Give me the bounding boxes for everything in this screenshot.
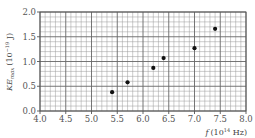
x-tick-label: 7.0 (188, 114, 202, 124)
x-axis-label: f(1014 Hz) (204, 127, 247, 137)
x-tick-label: 6.5 (162, 114, 176, 124)
data-point (151, 66, 155, 70)
y-tick-label: 0.5 (22, 81, 36, 91)
y-tick-label: 2.0 (22, 7, 36, 17)
y-tick-label: 1.5 (22, 32, 36, 42)
x-tick-label: 7.5 (213, 114, 227, 124)
data-point (110, 90, 114, 94)
x-tick-label: 8.0 (239, 114, 253, 124)
scatter-chart: 0.00.51.01.52.0 4.04.55.05.56.06.57.07.5… (0, 0, 255, 138)
x-tick-label: 5.0 (85, 114, 99, 124)
data-point (125, 80, 129, 84)
x-tick-label: 6.0 (136, 114, 150, 124)
y-axis-label: KEmax(10−19 J) (4, 33, 15, 92)
x-axis-ticks: 4.04.55.05.56.06.57.07.58.0 (33, 111, 253, 124)
x-tick-label: 5.5 (110, 114, 124, 124)
data-point (192, 46, 196, 50)
data-point (213, 27, 217, 31)
y-axis-ticks: 0.00.51.01.52.0 (22, 7, 40, 116)
x-tick-label: 4.5 (59, 114, 73, 124)
y-tick-label: 1.0 (22, 57, 36, 67)
x-tick-label: 4.0 (33, 114, 47, 124)
data-point (162, 56, 166, 60)
